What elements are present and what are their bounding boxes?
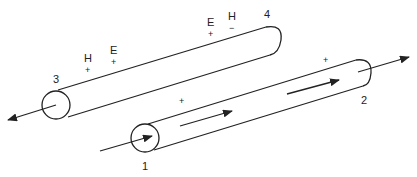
port-4-end-cap xyxy=(266,27,281,55)
port-2-label: 2 xyxy=(361,94,367,106)
h-field-label-right: H xyxy=(228,10,236,22)
h-field-sign-left: + xyxy=(85,65,90,75)
wave-arrow-1 xyxy=(180,111,232,126)
coupled-lines-diagram: 3 4 1 2 H + E + E + H − + + xyxy=(0,0,417,177)
e-field-label-left: E xyxy=(110,44,117,56)
e-field-label-right: E xyxy=(207,16,214,28)
port-2-output-arrow xyxy=(358,57,409,72)
h-field-label-left: H xyxy=(84,52,92,64)
lower-plus-sign-2: + xyxy=(323,55,328,65)
port-4-label: 4 xyxy=(264,8,270,20)
e-field-sign-left: + xyxy=(111,57,116,67)
port-3-label: 3 xyxy=(53,73,59,85)
upper-transmission-line xyxy=(8,27,281,120)
lower-plus-sign-1: + xyxy=(179,96,184,106)
port-1-label: 1 xyxy=(142,160,148,172)
e-field-sign-right: + xyxy=(208,29,213,39)
port-1-input-arrow xyxy=(100,136,152,151)
port-2-end-cap xyxy=(356,60,371,86)
wave-arrow-2 xyxy=(287,80,339,94)
h-field-sign-right: − xyxy=(229,23,234,33)
